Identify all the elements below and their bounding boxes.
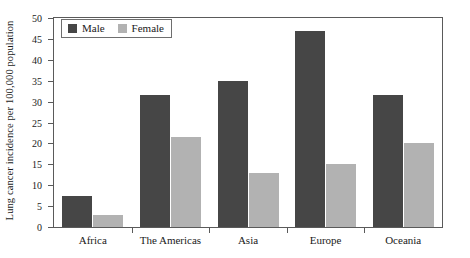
y-axis-tick-label: 30: [32, 96, 42, 107]
y-axis-tick-mark: [48, 143, 53, 144]
bars-layer: [54, 18, 442, 227]
male-color-swatch: [68, 24, 77, 33]
y-axis-tick-labels: 05101520253035404550: [20, 12, 46, 228]
chart-legend: MaleFemale: [61, 19, 172, 38]
y-axis-title-text: Lung cancer incidence per 100,000 popula…: [5, 20, 16, 220]
y-axis-tick-mark: [48, 206, 53, 207]
bar-group: [140, 18, 201, 227]
y-axis-tick-mark: [48, 227, 53, 228]
y-axis-tick-label: 15: [32, 159, 42, 170]
bar-female-europe: [326, 164, 356, 227]
bar-female-the-americas: [171, 137, 201, 227]
x-axis-tick-label-europe: Europe: [310, 234, 342, 246]
x-axis-tick-label-oceania: Oceania: [385, 234, 421, 246]
bar-chart: Lung cancer incidence per 100,000 popula…: [0, 0, 470, 258]
bar-male-asia: [218, 81, 248, 227]
bar-female-asia: [249, 173, 279, 227]
y-axis-tick-label: 35: [32, 75, 42, 86]
bar-male-europe: [295, 31, 325, 227]
y-axis-tick-label: 50: [32, 13, 42, 24]
x-axis-tick-labels: AfricaThe AmericasAsiaEuropeOceania: [54, 234, 442, 254]
bar-group: [373, 18, 434, 227]
y-axis-tick-mark: [48, 123, 53, 124]
y-axis-tick-mark: [48, 81, 53, 82]
bar-female-oceania: [404, 143, 434, 227]
female-color-swatch: [118, 24, 127, 33]
bar-male-oceania: [373, 95, 403, 227]
x-axis-tick-mark: [132, 228, 133, 233]
legend-entry-female: Female: [118, 23, 164, 34]
y-axis-tick-mark: [48, 39, 53, 40]
y-axis-title: Lung cancer incidence per 100,000 popula…: [0, 0, 20, 240]
bar-group: [295, 18, 356, 227]
bar-female-africa: [93, 215, 123, 227]
legend-entry-male: Male: [68, 23, 105, 34]
legend-label-male: Male: [82, 23, 105, 34]
y-axis-tick-label: 20: [32, 138, 42, 149]
y-axis-tick-mark: [48, 164, 53, 165]
x-axis-tick-mark: [364, 228, 365, 233]
y-axis-tick-mark: [48, 60, 53, 61]
y-axis-tick-mark: [48, 18, 53, 19]
y-axis-tick-label: 0: [37, 222, 42, 233]
y-axis-tick-label: 25: [32, 117, 42, 128]
bar-group: [218, 18, 279, 227]
y-axis-tick-mark: [48, 185, 53, 186]
y-axis-tick-label: 40: [32, 54, 42, 65]
y-axis-tick-mark: [48, 102, 53, 103]
x-axis-tick-label-the-americas: The Americas: [140, 234, 201, 246]
x-axis-tick-label-asia: Asia: [238, 234, 258, 246]
y-axis-tick-label: 10: [32, 180, 42, 191]
x-axis-tick-mark: [209, 228, 210, 233]
x-axis-tick-mark: [287, 228, 288, 233]
bar-male-the-americas: [140, 95, 170, 227]
y-axis-tick-label: 45: [32, 33, 42, 44]
bar-group: [62, 18, 123, 227]
x-axis-tick-label-africa: Africa: [79, 234, 107, 246]
bar-male-africa: [62, 196, 92, 227]
legend-label-female: Female: [132, 23, 164, 34]
y-axis-tick-label: 5: [37, 201, 42, 212]
